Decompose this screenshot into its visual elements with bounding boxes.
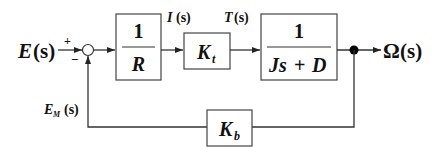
- block-resistance-denominator: R: [131, 53, 145, 75]
- input-label-arg: (s): [33, 39, 55, 63]
- back-emf-label-arg: (s): [64, 102, 79, 118]
- block-resistance: 1 R: [116, 14, 161, 80]
- output-label-arg: (s): [400, 39, 422, 63]
- current-label-arg: (s): [176, 10, 191, 26]
- block-mechanical-denominator-b: D: [311, 54, 326, 76]
- torque-label-arg: (s): [234, 10, 249, 26]
- block-back-emf: K b: [207, 110, 252, 146]
- summing-junction: [83, 45, 94, 56]
- current-label-main: I: [166, 10, 173, 25]
- block-kb-main: K: [218, 118, 234, 140]
- block-mechanical-numerator: 1: [294, 20, 304, 42]
- block-resistance-numerator: 1: [134, 20, 144, 42]
- input-label-main: E: [17, 39, 32, 63]
- motor-block-diagram: E (s) + − 1 R I (s) K t T (s) 1 Js + D: [0, 0, 437, 156]
- output-label-main: Ω: [383, 39, 400, 63]
- block-mechanical-denominator-a: Js: [268, 54, 287, 76]
- back-emf-signal-label: E M (s): [43, 102, 79, 119]
- output-label: Ω (s): [383, 39, 422, 63]
- minus-sign: −: [71, 52, 78, 67]
- torque-label-main: T: [224, 10, 234, 25]
- input-label: E (s): [17, 39, 55, 63]
- block-mechanical-denominator-op: +: [294, 54, 305, 76]
- torque-signal-label: T (s): [224, 10, 249, 26]
- back-emf-label-main: E: [43, 102, 53, 117]
- plus-sign: +: [64, 34, 71, 48]
- block-kt-main: K: [196, 41, 212, 63]
- block-kb-sub: b: [234, 129, 240, 143]
- block-torque-constant: K t: [184, 33, 230, 69]
- current-signal-label: I (s): [166, 10, 191, 26]
- back-emf-label-sub: M: [52, 110, 61, 119]
- block-mechanical: 1 Js + D: [261, 14, 337, 80]
